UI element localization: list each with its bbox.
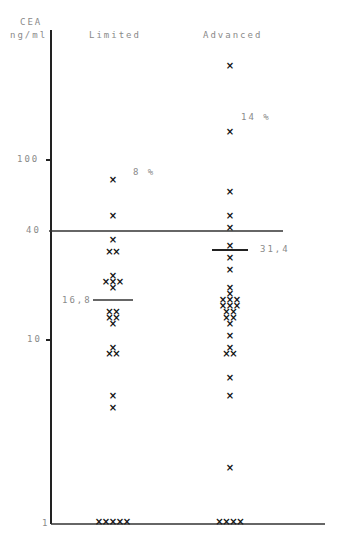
y-axis-label-line2: ng/ml — [10, 30, 47, 40]
data-point-x-marker: × — [236, 516, 244, 527]
data-point-x-marker: × — [109, 282, 117, 293]
data-point-x-marker: × — [123, 516, 131, 527]
y-tick-label-100: 100 — [17, 154, 39, 164]
cea-scatter-chart: ××××××××××××××××××××××××× ××××××××××××××… — [0, 0, 341, 543]
median-label-limited: 16,8 — [62, 295, 92, 305]
data-point-x-marker: × — [226, 462, 234, 473]
data-point-x-marker: × — [109, 234, 117, 245]
data-point-x-marker: × — [112, 246, 120, 257]
data-point-x-marker: × — [112, 348, 120, 359]
data-point-x-marker: × — [109, 174, 117, 185]
y-tick-label-10: 10 — [27, 334, 42, 344]
data-point-x-marker: × — [109, 210, 117, 221]
data-point-x-marker: × — [226, 264, 234, 275]
data-point-x-marker: × — [226, 372, 234, 383]
data-point-x-marker: × — [226, 240, 234, 251]
points-advanced: ×××××××××××××××××××××××××××××××× — [215, 60, 244, 527]
data-point-x-marker: × — [226, 252, 234, 263]
median-label-advanced: 31,4 — [260, 244, 290, 254]
data-point-x-marker: × — [109, 402, 117, 413]
data-point-x-marker: × — [109, 390, 117, 401]
data-point-x-marker: × — [226, 60, 234, 71]
data-point-x-marker: × — [226, 318, 234, 329]
data-point-x-marker: × — [226, 186, 234, 197]
percent-label-advanced: 14 % — [241, 112, 271, 122]
y-tick-label-1: 1 — [42, 518, 49, 528]
category-label-limited: Limited — [89, 30, 141, 40]
percent-label-limited: 8 % — [133, 167, 155, 177]
y-tick-label-40: 40 — [26, 225, 41, 235]
data-point-x-marker: × — [226, 210, 234, 221]
data-point-x-marker: × — [229, 348, 237, 359]
data-point-x-marker: × — [226, 330, 234, 341]
points-limited: ××××××××××××××××××××××××× — [95, 174, 131, 527]
data-point-x-marker: × — [226, 390, 234, 401]
y-axis-label-line1: CEA — [20, 17, 42, 27]
data-point-x-marker: × — [226, 126, 234, 137]
data-point-x-marker: × — [226, 222, 234, 233]
category-label-advanced: Advanced — [203, 30, 262, 40]
data-point-x-marker: × — [109, 318, 117, 329]
